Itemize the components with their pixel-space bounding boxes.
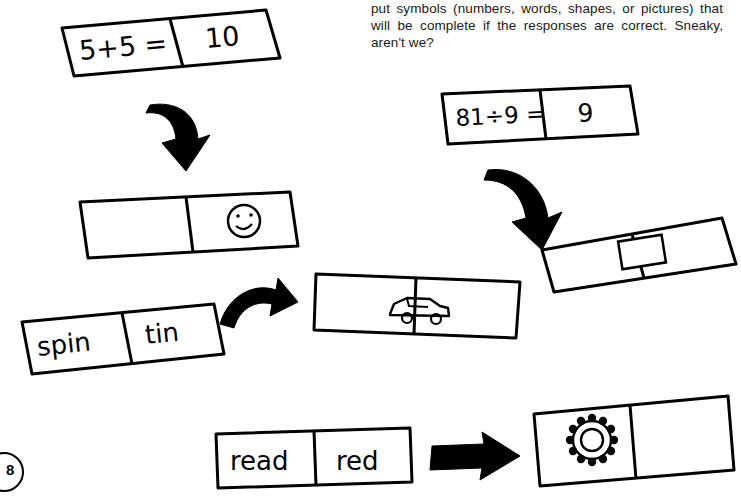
arrow-right-middle <box>214 276 300 338</box>
domino-red-text: red <box>336 446 379 476</box>
arrow-right-bottom <box>428 430 524 488</box>
domino-read-red: read red <box>212 424 420 496</box>
worksheet-page: put symbols (numbers, words, shapes, or … <box>0 0 741 503</box>
domino-smiley-half <box>76 188 306 266</box>
domino-81div9: 81÷9 = 9 <box>438 82 646 154</box>
arrow-down-left <box>140 95 220 175</box>
domino-5plus5: 5+5 = 10 <box>58 8 284 80</box>
domino-rectangle <box>540 212 740 300</box>
domino-5plus5-right-text: 10 <box>204 20 241 54</box>
domino-81div9-right-text: 9 <box>577 98 594 128</box>
intro-paragraph: put symbols (numbers, words, shapes, or … <box>371 0 723 51</box>
domino-81div9-left-text: 81÷9 = <box>455 100 546 131</box>
domino-tin-text: tin <box>143 317 180 350</box>
domino-spin-tin: spin tin <box>18 300 232 382</box>
domino-flower <box>528 390 738 490</box>
rectangle-shape-icon <box>618 235 666 270</box>
domino-car <box>312 268 530 352</box>
page-number-badge: 8 <box>0 452 24 492</box>
page-number: 8 <box>6 461 14 478</box>
intro-text-block: put symbols (numbers, words, shapes, or … <box>371 0 723 51</box>
domino-read-text: read <box>230 446 289 476</box>
domino-spin-text: spin <box>35 327 92 362</box>
